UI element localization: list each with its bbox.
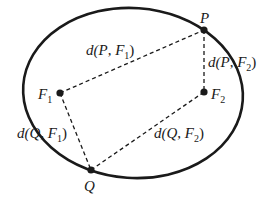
label-f2: F2 — [210, 86, 225, 105]
label-distance-p-f1: d(P, F1) — [86, 42, 134, 61]
point-f2 — [200, 88, 207, 95]
ellipse-foci-diagram: P F1 F2 Q d(P, F1) d(P, F2) d(Q, F1) d(Q… — [0, 0, 272, 197]
label-f1: F1 — [37, 86, 52, 105]
point-p — [200, 26, 207, 33]
label-p: P — [199, 10, 209, 26]
label-q: Q — [84, 178, 95, 194]
point-q — [87, 166, 94, 173]
point-f1 — [56, 89, 63, 96]
label-distance-q-f2: d(Q, F2) — [154, 125, 204, 144]
label-distance-p-f2: d(P, F2) — [208, 54, 256, 73]
segment-p-f1 — [60, 30, 204, 93]
label-distance-q-f1: d(Q, F1) — [17, 125, 67, 144]
